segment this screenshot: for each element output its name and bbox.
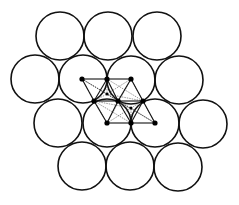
lattice-node <box>91 98 96 103</box>
lattice-node <box>152 120 157 125</box>
lattice-node <box>140 98 145 103</box>
sphere-circle <box>179 100 227 148</box>
close-packing-diagram <box>0 0 239 205</box>
lattice-node <box>128 76 133 81</box>
sphere-circle <box>106 142 154 190</box>
lattice-edge <box>94 101 107 123</box>
sphere-circle <box>84 12 132 60</box>
interstitial-node <box>106 93 109 96</box>
lattice-node <box>104 76 109 81</box>
sphere-circle <box>154 143 202 191</box>
lattice-node <box>115 98 120 103</box>
sphere-circle <box>58 142 106 190</box>
sphere-circle <box>34 99 82 147</box>
lattice-edge <box>118 79 131 101</box>
sphere-circle <box>133 12 181 60</box>
sphere-circle <box>11 55 59 103</box>
lattice-edge <box>131 79 143 101</box>
lattice-node <box>104 120 109 125</box>
sphere-circle <box>36 12 84 60</box>
lattice-edge <box>82 79 94 101</box>
interstitial-node <box>130 107 133 110</box>
sphere-circle <box>155 56 203 104</box>
lattice-node <box>128 120 133 125</box>
lattice-node <box>79 76 84 81</box>
